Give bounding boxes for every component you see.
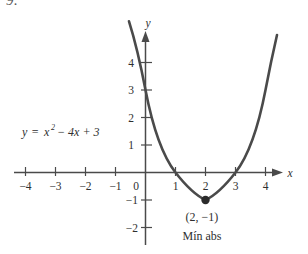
equation-label: y = x 2 − 4x + 3 <box>21 123 100 139</box>
equation-lhs: y <box>21 125 28 139</box>
y-axis-label: y <box>144 17 151 30</box>
y-axis-arrow-icon <box>142 31 150 42</box>
vertex-point-label: (2, −1) <box>186 210 219 224</box>
x-axis-label: x <box>286 167 293 179</box>
x-tick-label--3: −3 <box>49 180 61 192</box>
y-tick-label-1: 1 <box>128 139 134 151</box>
parabola-figure: 9. <box>0 0 308 254</box>
equation-equals: = <box>31 125 39 139</box>
y-tick-label--2: −2 <box>126 222 138 234</box>
y-tick-label-2: 2 <box>128 112 134 124</box>
y-tick-label--1: −1 <box>126 194 138 206</box>
equation-exponent: 2 <box>51 123 55 132</box>
x-tick-label-4: 4 <box>263 180 269 192</box>
vertex-point-marker <box>201 196 209 204</box>
exercise-number: 9. <box>6 0 18 9</box>
x-tick-label--2: −2 <box>79 180 91 192</box>
y-axis-ticks <box>141 63 152 228</box>
x-tick-label-3: 3 <box>233 180 239 192</box>
equation-rest: − 4x + 3 <box>57 125 100 139</box>
y-tick-label-4: 4 <box>128 57 134 69</box>
x-axis-arrow-icon <box>272 169 283 177</box>
x-tick-label--1: −1 <box>109 180 121 192</box>
x-tick-label-1: 1 <box>173 180 179 192</box>
x-tick-label-2: 2 <box>203 180 209 192</box>
vertex-caption-label: Mín abs <box>183 229 222 243</box>
x-tick-label-0: 0 <box>133 180 139 192</box>
equation-base: x <box>43 125 50 139</box>
x-tick-label--4: −4 <box>19 180 31 192</box>
parabola-chart-svg: −4 −3 −2 −1 0 1 2 3 4 4 3 2 1 −1 −2 x y … <box>0 0 308 254</box>
y-tick-label-3: 3 <box>128 84 134 96</box>
